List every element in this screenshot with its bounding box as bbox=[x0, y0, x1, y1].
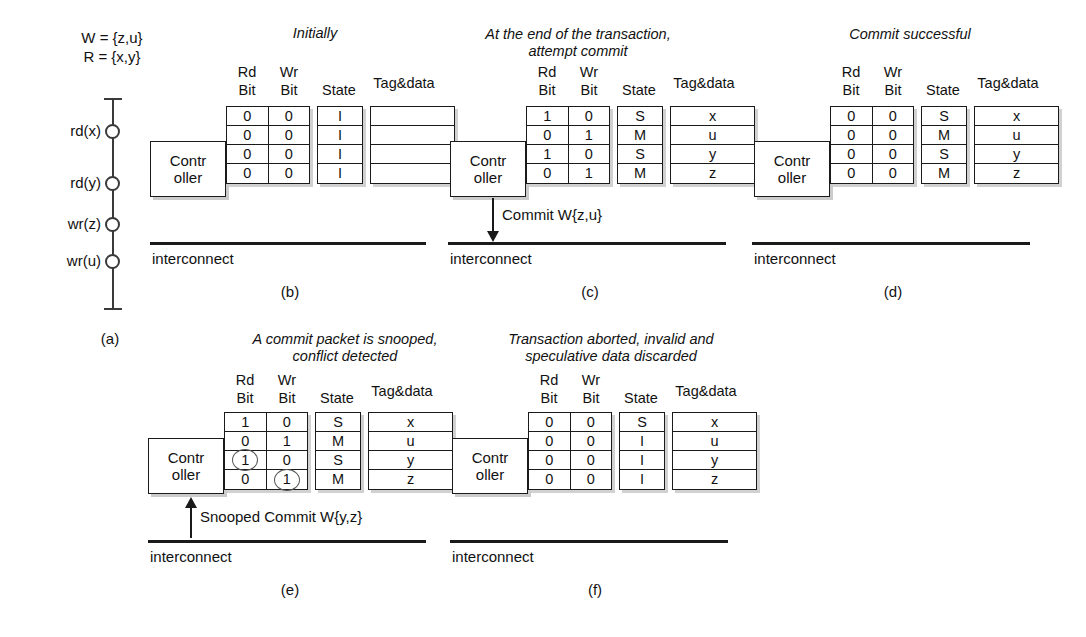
cell-wr-bit: 0 bbox=[873, 126, 914, 144]
cell-state: M bbox=[618, 126, 662, 144]
panel-b-title-line1: Initially bbox=[215, 25, 415, 42]
panel-e-cache-table: 1 0 0 1 1 0 0 1 S bbox=[224, 412, 453, 490]
cell-wr-bit: 0 bbox=[269, 164, 310, 183]
table-row bbox=[371, 145, 454, 164]
cell-tag: x bbox=[369, 413, 452, 431]
panel-b-interconnect-label: interconnect bbox=[152, 250, 234, 267]
panel-e-interconnect-label: interconnect bbox=[150, 548, 232, 565]
panel-caption-b: (b) bbox=[255, 283, 325, 300]
controller-line2: oller bbox=[476, 466, 504, 483]
table-row: I bbox=[620, 432, 664, 451]
table-row: I bbox=[318, 145, 362, 164]
table-row: 0 0 bbox=[529, 413, 611, 432]
panel-f-tag-group: x u y z bbox=[672, 412, 757, 490]
header-wr-line2: Bit bbox=[266, 390, 308, 406]
header-wr-line1: Wr bbox=[268, 64, 310, 80]
header-rd-line1: Rd bbox=[526, 64, 568, 80]
cell-tag: z bbox=[369, 470, 452, 489]
table-row: M bbox=[922, 126, 966, 145]
cell-state: M bbox=[618, 164, 662, 183]
panel-d-tag-group: x u y z bbox=[974, 106, 1059, 184]
cell-wr-bit: 0 bbox=[269, 107, 310, 125]
table-row: S bbox=[620, 413, 664, 432]
table-row: 0 0 bbox=[529, 470, 611, 489]
panel-b-controller: Contr oller bbox=[150, 141, 226, 197]
controller-line2: oller bbox=[778, 169, 806, 186]
table-row: x bbox=[673, 413, 756, 432]
table-row bbox=[371, 107, 454, 126]
table-row: x bbox=[975, 107, 1058, 126]
table-row: 0 0 bbox=[529, 432, 611, 451]
panel-e-title: A commit packet is snooped, conflict det… bbox=[210, 331, 480, 365]
panel-e-snoop-arrow-label: Snooped Commit W{y,z} bbox=[200, 508, 362, 525]
header-state: State bbox=[919, 82, 967, 98]
timeline-label-3: wr(u) bbox=[33, 252, 101, 269]
panel-b-interconnect-line bbox=[150, 242, 426, 245]
panel-d-controller: Contr oller bbox=[754, 141, 830, 197]
table-row: 0 1 bbox=[225, 470, 307, 489]
cell-wr-bit: 0 bbox=[571, 432, 612, 450]
cell-wr-bit: 1 bbox=[569, 126, 610, 144]
header-rd-line1: Rd bbox=[224, 372, 266, 388]
panel-caption-d: (d) bbox=[858, 283, 928, 300]
panel-f-bits-group: 0 0 0 0 0 0 0 0 bbox=[528, 412, 612, 490]
cell-tag: y bbox=[673, 451, 756, 469]
header-wr-line2: Bit bbox=[872, 82, 914, 98]
header-state: State bbox=[617, 390, 665, 406]
table-row: I bbox=[620, 451, 664, 470]
cell-rd-bit: 1 bbox=[527, 107, 569, 125]
cell-wr-bit: 0 bbox=[571, 413, 612, 431]
table-row: I bbox=[318, 107, 362, 126]
panel-d-state-group: S M S M bbox=[921, 106, 967, 184]
panel-d-cache-table: 0 0 0 0 0 0 0 0 S bbox=[830, 106, 1059, 184]
cell-rd-bit: 0 bbox=[225, 432, 267, 450]
panel-d-bits-group: 0 0 0 0 0 0 0 0 bbox=[830, 106, 914, 184]
table-row: x bbox=[671, 107, 754, 126]
controller-line1: Contr bbox=[470, 152, 507, 169]
cell-tag: y bbox=[369, 451, 452, 469]
timeline-node-1 bbox=[105, 176, 120, 191]
table-row: u bbox=[975, 126, 1058, 145]
header-tag: Tag&data bbox=[666, 75, 742, 91]
panel-b-cache-table: 0 0 0 0 0 0 0 0 I bbox=[226, 106, 455, 184]
header-rd-line1: Rd bbox=[528, 372, 570, 388]
cell-state: I bbox=[318, 107, 362, 125]
table-row: y bbox=[975, 145, 1058, 164]
table-row: u bbox=[369, 432, 452, 451]
table-row: 0 0 bbox=[831, 145, 913, 164]
cell-state: I bbox=[318, 126, 362, 144]
cell-wr-bit: 0 bbox=[873, 164, 914, 183]
cell-rd-bit: 0 bbox=[831, 126, 873, 144]
table-row: S bbox=[922, 107, 966, 126]
table-row: 0 0 bbox=[529, 451, 611, 470]
cell-state: M bbox=[316, 470, 360, 489]
panel-c-title-line2: attempt commit bbox=[448, 43, 708, 60]
panel-caption-a: (a) bbox=[75, 330, 145, 347]
header-tag: Tag&data bbox=[364, 383, 440, 399]
table-row: z bbox=[975, 164, 1058, 183]
table-row: 0 0 bbox=[831, 107, 913, 126]
controller-line1: Contr bbox=[170, 152, 207, 169]
cell-rd-bit: 0 bbox=[529, 470, 571, 489]
panel-c-interconnect-line bbox=[448, 242, 726, 245]
read-set-label: R = {x,y} bbox=[62, 47, 162, 66]
panel-c-title: At the end of the transaction, attempt c… bbox=[448, 26, 708, 60]
cell-rd-bit: 1 bbox=[225, 413, 267, 431]
panel-e-snoop-arrow-shaft bbox=[190, 505, 192, 538]
header-rd-line2: Bit bbox=[526, 82, 568, 98]
table-row bbox=[371, 126, 454, 145]
cell-tag: z bbox=[671, 164, 754, 183]
cell-wr-bit: 0 bbox=[569, 107, 610, 125]
panel-e-controller: Contr oller bbox=[148, 438, 224, 494]
timeline-bottom-cap bbox=[104, 308, 122, 310]
cell-state: S bbox=[316, 413, 360, 431]
panel-e-snoop-arrow-head bbox=[185, 497, 197, 508]
figure-canvas: W = {z,u} R = {x,y} rd(x) rd(y) wr(z) wr… bbox=[0, 0, 1086, 637]
cell-rd-bit: 0 bbox=[227, 126, 269, 144]
header-tag: Tag&data bbox=[668, 383, 744, 399]
header-wr-line1: Wr bbox=[568, 64, 610, 80]
table-row: I bbox=[318, 126, 362, 145]
cell-state: S bbox=[922, 107, 966, 125]
cell-state: S bbox=[316, 451, 360, 469]
cell-state: I bbox=[620, 470, 664, 489]
